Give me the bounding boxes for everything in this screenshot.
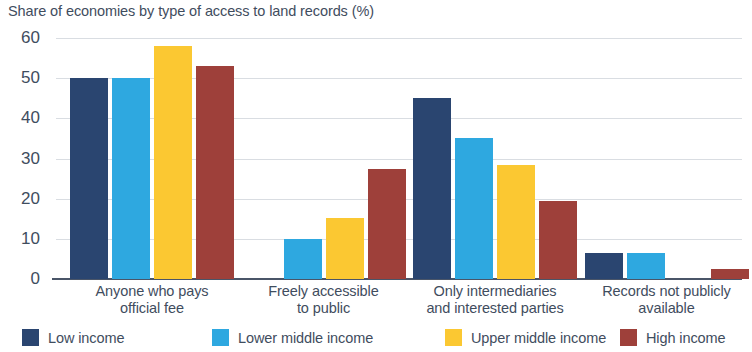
legend-label: Upper middle income <box>471 330 606 346</box>
bar <box>413 98 451 279</box>
legend-swatch-icon <box>620 329 637 346</box>
category-label-line: Only intermediaries <box>409 283 581 300</box>
legend-swatch-icon <box>445 329 462 346</box>
y-tick-label: 40 <box>21 108 40 128</box>
legend-item[interactable]: Lower middle income <box>212 329 373 346</box>
y-tick-label: 20 <box>21 188 40 208</box>
category-label: Only intermediariesand interested partie… <box>409 283 581 317</box>
gridline-60 <box>56 38 742 39</box>
bar <box>112 78 150 279</box>
category-label-line: Anyone who pays <box>66 283 238 300</box>
bar <box>497 165 535 279</box>
bar <box>196 66 234 279</box>
legend-item[interactable]: Upper middle income <box>445 329 606 346</box>
plot-area <box>56 38 742 279</box>
y-tick-label: 30 <box>21 148 40 168</box>
y-tick-label: 50 <box>21 68 40 88</box>
chart-legend: Low incomeLower middle incomeUpper middl… <box>0 329 747 352</box>
bar <box>284 239 322 279</box>
y-tick-label: 60 <box>21 28 40 48</box>
category-label-line: available <box>581 300 752 317</box>
y-axis-labels: 0102030405060 <box>0 38 50 279</box>
x-axis-category-labels: Anyone who paysofficial feeFreely access… <box>56 283 742 323</box>
legend-label: High income <box>646 330 726 346</box>
chart-title: Share of economies by type of access to … <box>8 3 374 19</box>
y-tick-label: 10 <box>21 228 40 248</box>
legend-item[interactable]: High income <box>620 329 726 346</box>
bar <box>368 169 406 279</box>
category-label: Freely accessibleto public <box>238 283 410 317</box>
legend-swatch-icon <box>22 329 39 346</box>
category-label-line: Freely accessible <box>238 283 410 300</box>
y-tick-label: 0 <box>31 269 40 289</box>
category-label: Anyone who paysofficial fee <box>66 283 238 317</box>
category-label: Records not publiclyavailable <box>581 283 752 317</box>
bar <box>326 218 364 279</box>
bar <box>70 78 108 279</box>
bar <box>585 253 623 279</box>
bar <box>627 253 665 279</box>
bar <box>154 46 192 279</box>
category-label-line: official fee <box>66 300 238 317</box>
category-label-line: Records not publicly <box>581 283 752 300</box>
legend-label: Low income <box>48 330 124 346</box>
bar <box>455 138 493 279</box>
category-label-line: to public <box>238 300 410 317</box>
legend-item[interactable]: Low income <box>22 329 124 346</box>
legend-swatch-icon <box>212 329 229 346</box>
gridline-0 <box>56 279 742 280</box>
bar <box>539 201 577 279</box>
bar <box>711 269 749 279</box>
category-label-line: and interested parties <box>409 300 581 317</box>
legend-label: Lower middle income <box>238 330 373 346</box>
